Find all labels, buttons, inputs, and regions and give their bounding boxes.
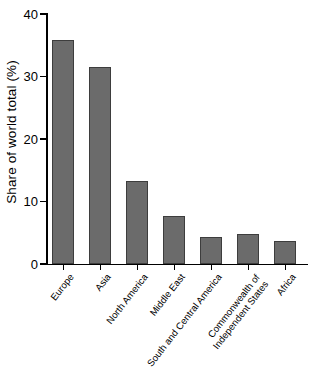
bar (237, 234, 259, 264)
bar (274, 241, 296, 264)
x-tick-label: South and Central America (145, 272, 223, 369)
bar (52, 40, 74, 264)
x-tick-mark (285, 265, 287, 270)
x-tick-label: Europe (48, 272, 75, 303)
plot-area (46, 14, 308, 264)
x-tick-label-line: South and Central America (145, 272, 223, 369)
x-tick-label-line: Africa (274, 272, 297, 297)
y-tick-label: 30 (0, 70, 38, 83)
bar (89, 67, 111, 264)
y-tick-label: 20 (0, 133, 38, 146)
y-tick-label: 10 (0, 195, 38, 208)
x-tick-mark (211, 265, 213, 270)
bar-chart: Share of world total (%) 403020100 Europ… (0, 0, 317, 371)
x-tick-label-line: Europe (48, 272, 75, 303)
x-tick-mark (248, 265, 250, 270)
y-tick-label: 40 (0, 8, 38, 21)
x-tick-label: Middle East (148, 272, 187, 318)
x-tick-mark (100, 265, 102, 270)
bar (126, 181, 148, 264)
y-tick-label: 0 (0, 258, 38, 271)
x-tick-label-line: Asia (93, 272, 112, 293)
bar (200, 237, 222, 265)
x-tick-label-line: Middle East (148, 272, 187, 318)
x-tick-mark (137, 265, 139, 270)
x-tick-mark (63, 265, 65, 270)
x-tick-mark (174, 265, 176, 270)
x-tick-label: Africa (274, 272, 297, 297)
x-tick-label: Asia (93, 272, 112, 293)
bar (163, 216, 185, 264)
